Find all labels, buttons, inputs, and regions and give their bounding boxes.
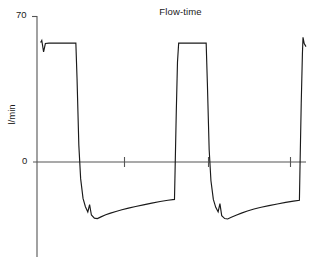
flow-time-chart-figure: Flow-time 70 0 l/min — [0, 0, 313, 270]
chart-plot-area — [0, 0, 313, 270]
axes-group — [32, 16, 306, 257]
flow-waveform-line — [41, 37, 306, 219]
